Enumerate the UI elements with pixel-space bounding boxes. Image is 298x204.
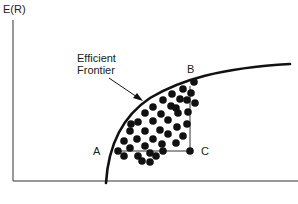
frontier-arrow	[109, 78, 137, 97]
portfolio-dots	[114, 78, 199, 166]
point-c-label: C	[201, 145, 209, 157]
y-axis-label: E(R)	[3, 3, 26, 15]
frontier-label-line2: Frontier	[77, 64, 115, 76]
point-a-label: A	[93, 145, 100, 157]
efficient-frontier-diagram	[0, 0, 298, 204]
arrowhead-icon	[133, 93, 143, 101]
point-b-label: B	[187, 63, 194, 75]
frontier-label-line1: Efficient	[77, 52, 116, 64]
